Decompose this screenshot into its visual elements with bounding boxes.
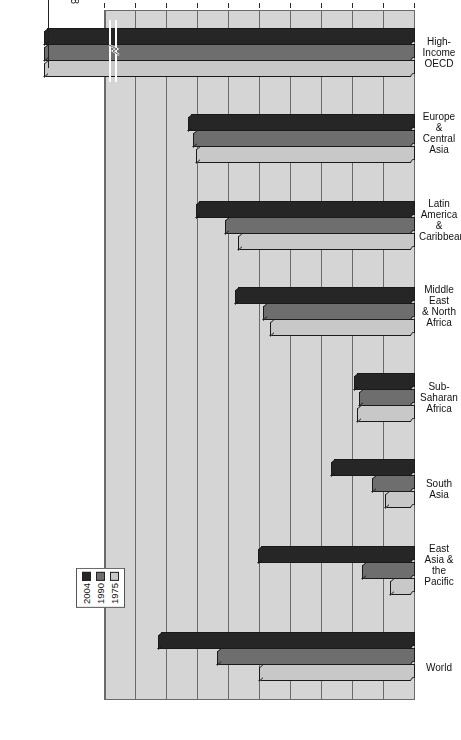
bar-top-face	[359, 402, 414, 406]
category-label-line: the Pacific	[419, 565, 459, 587]
bar-group	[105, 441, 415, 527]
bar-1975[interactable]	[388, 492, 415, 506]
legend-swatch-2004	[82, 572, 91, 581]
category-label: Latin America& Caribbean	[419, 198, 459, 242]
category-label-line: Central Asia	[419, 133, 459, 155]
bar-top-face	[43, 57, 413, 61]
bar-top-face	[195, 160, 414, 164]
bar-group	[105, 96, 415, 182]
tick-label-10: 10	[90, 0, 120, 2]
tick-5	[259, 3, 260, 8]
category-label: East Asia &the Pacific	[419, 543, 459, 587]
bar-2004[interactable]	[199, 201, 415, 215]
tick-7	[197, 3, 198, 8]
bar-2004[interactable]	[238, 287, 415, 301]
axis-break-zigzag-icon	[107, 46, 121, 58]
bar-group	[105, 528, 415, 614]
bar-1990[interactable]	[228, 217, 415, 231]
callout-value-label: $29412.98	[69, 0, 80, 4]
legend-label-2004: 2004	[81, 583, 92, 604]
bar-end-face	[196, 201, 200, 218]
category-label: World	[419, 662, 459, 673]
tick-label-9: 9	[121, 0, 151, 2]
tick-6	[228, 3, 229, 8]
bar-1975[interactable]	[360, 405, 415, 419]
bar-2004[interactable]	[161, 632, 415, 646]
category-label: Sub-SaharanAfrica	[419, 381, 459, 414]
bar-1990[interactable]	[362, 389, 415, 403]
bar-1975[interactable]	[199, 147, 415, 161]
bar-2004[interactable]	[357, 373, 415, 387]
tick-2	[352, 3, 353, 8]
bar-end-face	[390, 578, 394, 595]
tick-label-3: 3	[307, 0, 337, 2]
bar-1990[interactable]	[375, 476, 415, 490]
bar-end-face	[258, 546, 262, 563]
tick-4	[290, 3, 291, 8]
category-label-line: & Caribbean	[419, 220, 459, 242]
category-label-line: World	[419, 662, 459, 673]
tick-9	[135, 3, 136, 8]
category-label-line: South Asia	[419, 478, 459, 500]
tick-3	[321, 3, 322, 8]
bar-top-face	[43, 73, 413, 77]
bar-end-face	[259, 664, 263, 681]
bar-2004[interactable]	[191, 115, 415, 129]
bar-top-face	[258, 677, 414, 681]
bar-1990[interactable]	[365, 562, 415, 576]
bar-top-face	[353, 386, 414, 390]
bar-2004[interactable]	[334, 460, 415, 474]
bar-2004[interactable]	[261, 546, 415, 560]
legend-swatch-1975	[110, 572, 119, 581]
bar-1975[interactable]	[393, 578, 415, 592]
bar-top-face	[188, 128, 414, 132]
bar-1975[interactable]	[241, 233, 415, 247]
category-label-line: Latin America	[419, 198, 459, 220]
category-label-line: Sub-Saharan	[419, 381, 459, 403]
tick-0	[414, 3, 415, 8]
bar-top-face	[356, 418, 414, 422]
bar-1990[interactable]	[220, 648, 415, 662]
bar-1975[interactable]	[47, 60, 415, 74]
bar-1990[interactable]	[196, 131, 415, 145]
bar-1975[interactable]	[273, 319, 415, 333]
category-label-line: & North Africa	[419, 306, 459, 328]
bar-2004[interactable]	[47, 28, 415, 42]
legend-label-1975: 1975	[109, 583, 120, 604]
bar-top-face	[195, 214, 414, 218]
bar-group	[105, 614, 415, 700]
bar-top-face	[263, 316, 414, 320]
tick-label-0: 0	[400, 0, 430, 2]
bar-group	[105, 10, 415, 96]
tick-label-4: 4	[276, 0, 306, 2]
category-label-line: Middle East	[419, 284, 459, 306]
legend[interactable]: 197519902004	[76, 568, 125, 608]
legend-swatch-1990	[96, 572, 105, 581]
category-label-line: High-Income	[419, 36, 459, 58]
bar-top-face	[330, 473, 414, 477]
bar-group	[105, 183, 415, 269]
tick-label-8: 8	[152, 0, 182, 2]
bar-1975[interactable]	[262, 664, 415, 678]
category-label: Middle East& North Africa	[419, 284, 459, 328]
legend-label-1990: 1990	[95, 583, 106, 604]
bar-group	[105, 355, 415, 441]
bar-chart: 012345678910 (2004 purchasing power pari…	[105, 10, 415, 700]
bar-end-face	[238, 233, 242, 250]
bar-top-face	[269, 332, 413, 336]
rotated-chart-wrapper: 012345678910 (2004 purchasing power pari…	[0, 0, 461, 740]
bar-top-face	[372, 489, 414, 493]
bar-group	[105, 269, 415, 355]
category-label: Europe &Central Asia	[419, 111, 459, 155]
legend-item-1975[interactable]: 1975	[109, 572, 120, 604]
bar-1990[interactable]	[266, 303, 415, 317]
bar-top-face	[192, 144, 414, 148]
tick-label-5: 5	[245, 0, 275, 2]
legend-item-2004[interactable]: 2004	[81, 572, 92, 604]
legend-item-1990[interactable]: 1990	[95, 572, 106, 604]
bar-end-face	[235, 287, 239, 304]
tick-10	[104, 3, 105, 8]
bar-top-face	[43, 41, 413, 45]
bar-1990[interactable]	[47, 44, 415, 58]
category-label-line: East Asia &	[419, 543, 459, 565]
